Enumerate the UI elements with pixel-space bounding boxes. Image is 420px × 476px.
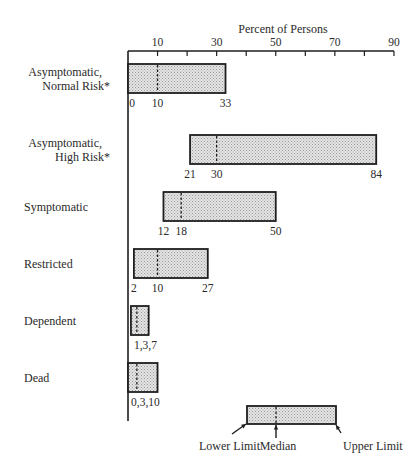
x-tick-label: 90 — [388, 36, 400, 48]
category-label: Asymptomatic, — [28, 136, 102, 150]
value-label: 33 — [220, 97, 232, 109]
range-bar-chart: Percent of Persons 1030507090 Asymptomat… — [0, 0, 420, 476]
value-label: 10 — [152, 97, 164, 109]
legend: Lower LimitMedianUpper Limit — [199, 406, 403, 453]
category-label: Symptomatic — [24, 200, 88, 214]
bar-row: Symptomatic121850 — [24, 192, 282, 237]
category-label: Asymptomatic, — [28, 65, 102, 79]
value-label: 1,3,7 — [134, 339, 157, 352]
bar-row: Asymptomatic,Normal Risk*01033 — [28, 64, 231, 109]
value-label: 2 — [131, 282, 137, 294]
category-label: High Risk* — [55, 150, 110, 164]
bar-row: Restricted21027 — [24, 249, 214, 294]
range-bar — [128, 363, 158, 392]
value-label: 0,3,10 — [131, 396, 160, 409]
range-bar — [128, 64, 226, 93]
range-bar — [134, 249, 208, 278]
x-tick-label: 50 — [270, 36, 282, 48]
bar-rows: Asymptomatic,Normal Risk*01033Asymptomat… — [24, 64, 382, 409]
bar-row: Dependent1,3,7 — [24, 306, 157, 352]
legend-lower-label: Lower Limit — [199, 439, 261, 453]
value-label: 0 — [129, 97, 135, 109]
range-bar — [131, 306, 149, 335]
bar-row: Asymptomatic,High Risk*213084 — [28, 135, 382, 180]
range-bar — [190, 135, 376, 164]
category-label: Dead — [24, 371, 49, 385]
value-label: 30 — [211, 168, 223, 180]
category-label: Restricted — [24, 257, 73, 271]
category-label: Dependent — [24, 314, 77, 328]
legend-upper-label: Upper Limit — [343, 439, 403, 453]
category-label: Normal Risk* — [42, 79, 110, 93]
x-tick-label: 30 — [211, 36, 223, 48]
value-label: 18 — [175, 225, 187, 237]
x-axis-title: Percent of Persons — [238, 22, 328, 36]
bar-row: Dead0,3,10 — [24, 363, 160, 409]
legend-bar — [247, 406, 336, 424]
median-arrow-icon-head — [274, 425, 278, 430]
value-label: 21 — [184, 168, 196, 180]
legend-median-label: Median — [260, 439, 297, 453]
x-tick-label: 70 — [329, 36, 341, 48]
value-label: 12 — [158, 225, 170, 237]
value-label: 84 — [370, 168, 382, 180]
range-bar — [163, 192, 275, 221]
value-label: 50 — [270, 225, 282, 237]
value-label: 10 — [152, 282, 164, 294]
x-tick-label: 10 — [152, 36, 164, 48]
value-label: 27 — [202, 282, 214, 294]
